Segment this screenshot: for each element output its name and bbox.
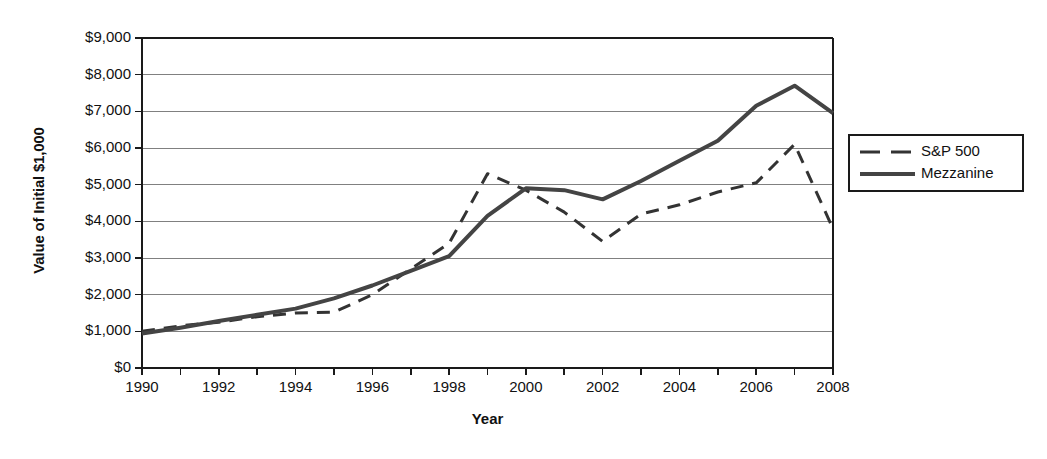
y-tick-label: $0	[114, 358, 131, 375]
gridlines	[142, 38, 833, 331]
y-tick-label: $7,000	[85, 101, 131, 118]
y-tick-label: $6,000	[85, 138, 131, 155]
x-tick-label: 2006	[724, 378, 788, 395]
x-axis-title: Year	[388, 410, 588, 427]
legend-label-sp-500: S&P 500	[921, 142, 980, 159]
y-tick-label: $2,000	[85, 285, 131, 302]
x-tick-label: 2004	[647, 378, 711, 395]
x-tick-label: 1990	[110, 378, 174, 395]
x-tick-label: 1996	[340, 378, 404, 395]
line-chart: Value of Initial $1,000 Year $0$1,000$2,…	[0, 0, 1047, 459]
y-tick-label: $9,000	[85, 28, 131, 45]
x-tick-label: 1994	[264, 378, 328, 395]
y-tick-label: $1,000	[85, 321, 131, 338]
x-tick-label: 1992	[187, 378, 251, 395]
x-tick-label: 1998	[417, 378, 481, 395]
x-tick-label: 2002	[571, 378, 635, 395]
y-tick-label: $8,000	[85, 65, 131, 82]
y-tick-label: $3,000	[85, 248, 131, 265]
legend-label-mezzanine: Mezzanine	[921, 164, 994, 181]
y-tick-label: $5,000	[85, 175, 131, 192]
data-series-layer	[142, 86, 833, 334]
series-line-s-p-500	[142, 144, 833, 331]
x-tick-label: 2008	[801, 378, 865, 395]
y-axis-title: Value of Initial $1,000	[30, 101, 47, 301]
x-tick-label: 2000	[494, 378, 558, 395]
y-tick-label: $4,000	[85, 211, 131, 228]
series-line-mezzanine	[142, 86, 833, 334]
